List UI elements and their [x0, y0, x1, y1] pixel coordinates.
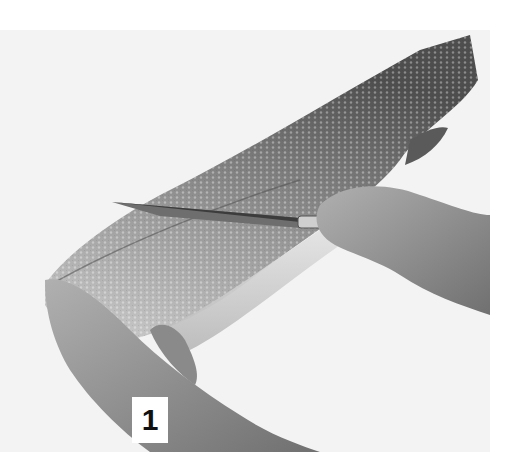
photo-illustration: [0, 30, 490, 452]
right-hand: [316, 186, 490, 315]
salmon-filleting-photo: [0, 30, 490, 452]
step-number: 1: [142, 403, 159, 437]
salmon-body: [45, 35, 478, 350]
step-number-badge: 1: [132, 397, 168, 443]
